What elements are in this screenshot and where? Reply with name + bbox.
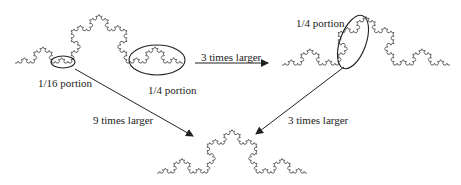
label-1-16-portion: 1/16 portion <box>38 78 92 89</box>
label-3-times-larger-top: 3 times larger <box>201 52 261 63</box>
koch-fractal-diagram <box>0 0 461 185</box>
koch-curve-top-left <box>15 15 183 64</box>
koch-curve-bottom <box>157 130 307 173</box>
label-9-times-larger: 9 times larger <box>93 115 153 126</box>
label-3-times-larger-bottom: 3 times larger <box>288 115 348 126</box>
label-1-4-portion-left: 1/4 portion <box>148 85 197 96</box>
label-1-4-portion-right: 1/4 portion <box>296 18 345 29</box>
